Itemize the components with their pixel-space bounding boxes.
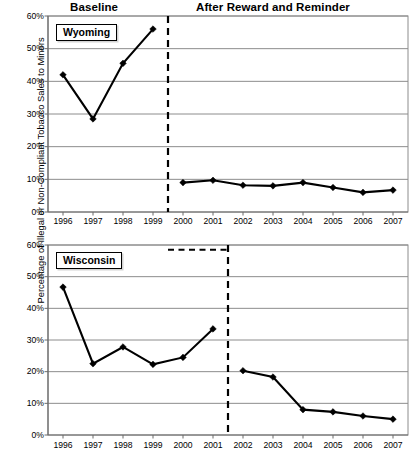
x-tick-label-lower: 2002: [228, 440, 258, 450]
y-tick-label: 30%: [14, 109, 44, 119]
x-tick-label-lower: 2001: [198, 440, 228, 450]
x-tick-label-upper: 1998: [108, 216, 138, 226]
y-tick-label: 10%: [14, 174, 44, 184]
y-tick-label: 0%: [14, 207, 44, 217]
x-tick-label-upper: 2007: [378, 216, 408, 226]
panel-label-wyoming: Wyoming: [56, 24, 117, 41]
x-tick-label-lower: 2003: [258, 440, 288, 450]
x-tick-label-upper: 1999: [138, 216, 168, 226]
x-tick-label-upper: 2004: [288, 216, 318, 226]
x-tick-label-lower: 1999: [138, 440, 168, 450]
x-tick-label-upper: 2006: [348, 216, 378, 226]
y-tick-label: 40%: [14, 303, 44, 313]
y-tick-label: 50%: [14, 43, 44, 53]
x-tick-label-upper: 2002: [228, 216, 258, 226]
panel-label-wisconsin: Wisconsin: [56, 252, 122, 269]
x-tick-label-lower: 1998: [108, 440, 138, 450]
x-tick-label-lower: 2005: [318, 440, 348, 450]
x-tick-label-upper: 1997: [78, 216, 108, 226]
y-tick-label: 0%: [14, 430, 44, 440]
x-tick-label-upper: 2000: [168, 216, 198, 226]
figure-root: Baseline After Reward and Reminder Perce…: [0, 0, 418, 462]
y-tick-label: 30%: [14, 335, 44, 345]
x-tick-label-lower: 2000: [168, 440, 198, 450]
x-tick-label-lower: 2004: [288, 440, 318, 450]
y-tick-label: 60%: [14, 240, 44, 250]
x-tick-label-upper: 2003: [258, 216, 288, 226]
x-tick-label-lower: 2007: [378, 440, 408, 450]
x-tick-label-upper: 2005: [318, 216, 348, 226]
y-tick-label: 20%: [14, 366, 44, 376]
x-tick-label-lower: 1996: [48, 440, 78, 450]
x-tick-label-lower: 2006: [348, 440, 378, 450]
x-tick-label-lower: 1997: [78, 440, 108, 450]
y-tick-label: 50%: [14, 271, 44, 281]
x-tick-label-upper: 1996: [48, 216, 78, 226]
y-tick-label: 10%: [14, 398, 44, 408]
y-tick-label: 60%: [14, 11, 44, 21]
y-tick-label: 20%: [14, 141, 44, 151]
y-tick-label: 40%: [14, 76, 44, 86]
x-tick-label-upper: 2001: [198, 216, 228, 226]
